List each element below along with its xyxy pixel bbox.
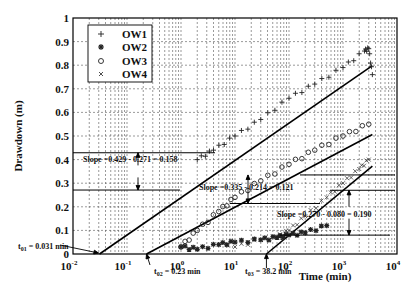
y-tick-label: 0.6 [55,106,69,118]
y-tick-label: 0.9 [55,36,69,48]
x-tick-label: 10-2 [61,259,78,272]
y-axis-label: Drawdown (m) [12,100,25,172]
y-axis-ticks: 00.10.20.30.40.50.60.70.80.91 [55,12,69,260]
svg-text:OW4: OW4 [122,68,148,80]
y-tick-label: 0.8 [55,59,69,71]
y-tick-label: 0.7 [55,83,69,95]
svg-text:OW2: OW2 [122,41,148,53]
y-tick-label: 0.5 [55,130,69,142]
y-tick-label: 0.2 [55,201,69,213]
x-axis-label: Time (min) [299,270,352,283]
x-tick-label: 101 [224,259,239,272]
t02-annotation: t02 = 0.23 min [154,267,201,277]
x-tick-label: 10-1 [115,259,132,272]
x-tick-label: 104 [386,259,401,272]
svg-text:OW3: OW3 [122,55,148,67]
slope-reference-lines [73,153,395,235]
y-tick-label: 1 [64,12,70,24]
y-tick-label: 0.1 [55,224,69,236]
y-tick-label: 0.4 [55,154,69,166]
t01-annotation: t01 = 0.031 min [18,242,69,252]
slope-annotation-ow1: Slope =0.429 - 0.271 = 0.158 [83,155,177,164]
drawdown-chart: 00.10.20.30.40.50.60.70.80.91 10-210-110… [0,0,419,305]
slope-annotation-ow3: Slope =0.335 - 0.214 = 0.121 [199,183,293,192]
legend: OW1 OW2 OW3 OW4 [88,25,152,82]
svg-text:OW1: OW1 [122,28,147,40]
t03-annotation: t03 = 38.2 min [245,267,292,277]
slope-annotation-ow4: Slope =0.270 - 0.080 = 0.190 [277,210,371,219]
y-tick-label: 0.3 [55,177,69,189]
